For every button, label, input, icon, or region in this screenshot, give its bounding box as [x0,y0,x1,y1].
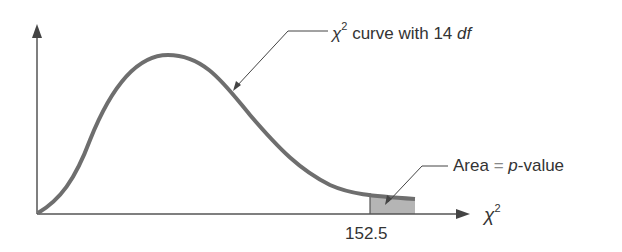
curve-leader-line [236,31,328,87]
x-axis-label: χ2 [484,202,501,226]
x-axis-arrow-icon [456,209,470,219]
chi-square-curve [38,55,415,213]
y-axis-arrow-icon [32,24,42,38]
curve-label-text: curve with 14 [347,24,457,43]
p-text: p [508,156,517,175]
superscript: 2 [494,202,500,214]
value-text: -value [518,156,564,175]
chi-symbol: χ [484,204,494,225]
chi-square-diagram [0,0,622,252]
df-text: df [457,24,471,43]
tick-label-152-5: 152.5 [345,224,388,244]
area-text: Area [453,156,494,175]
chi-symbol: χ [332,24,341,43]
equals-sign: = [494,156,509,175]
area-label: Area = p-value [453,156,564,176]
curve-label: χ2 curve with 14 df [332,20,471,44]
